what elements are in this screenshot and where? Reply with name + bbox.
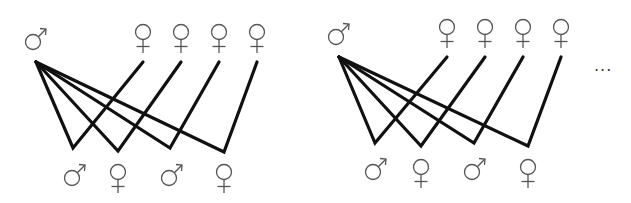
edges-right — [339, 57, 561, 146]
female-partner-icon — [554, 20, 569, 49]
continuation-ellipsis: ... — [594, 56, 612, 75]
panel-right — [329, 20, 569, 189]
female-partner-icon — [478, 20, 493, 49]
offspring-male-icon — [366, 159, 387, 180]
female-partner-icon — [516, 20, 531, 49]
male-parent-icon — [329, 24, 350, 45]
mating-diagram — [0, 0, 631, 203]
offspring-female-icon — [217, 165, 232, 194]
offspring-male-icon — [65, 165, 86, 186]
female-partner-icon — [174, 25, 189, 54]
male-parent-icon — [26, 29, 47, 50]
female-partner-icon — [440, 20, 455, 49]
panel-left — [26, 25, 265, 194]
female-partner-icon — [250, 25, 265, 54]
offspring-male-icon — [162, 165, 183, 186]
female-partner-icon — [136, 25, 151, 54]
offspring-female-icon — [111, 165, 126, 194]
offspring-female-icon — [521, 160, 536, 189]
offspring-female-icon — [414, 160, 429, 189]
female-partner-icon — [212, 25, 227, 54]
edges-left — [36, 62, 257, 152]
offspring-male-icon — [465, 159, 486, 180]
